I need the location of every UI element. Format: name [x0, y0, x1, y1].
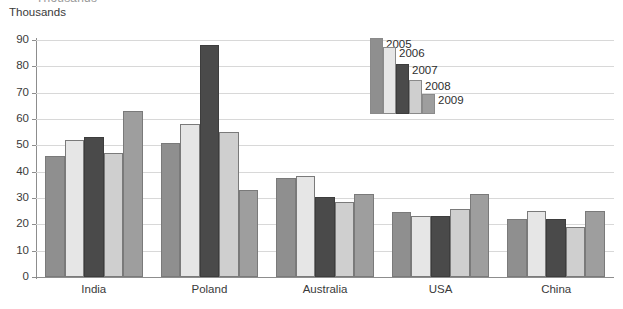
bar-group-india: [45, 40, 143, 277]
legend-swatch-2006[interactable]: [383, 47, 396, 114]
y-tick-mark-50: [32, 145, 36, 146]
legend-label-2006: 2006: [399, 48, 425, 60]
y-tick-label-70: 70: [16, 87, 29, 99]
bar-group-poland: [161, 40, 259, 277]
bar-poland-2005[interactable]: [161, 143, 181, 277]
bar-usa-2007[interactable]: [431, 216, 451, 277]
y-tick-mark-20: [32, 224, 36, 225]
y-tick-label-60: 60: [16, 113, 29, 125]
bar-usa-2008[interactable]: [450, 209, 470, 277]
bar-group-china: [507, 40, 605, 277]
bar-poland-2008[interactable]: [219, 132, 239, 277]
bar-australia-2008[interactable]: [335, 202, 355, 277]
chart-legend: 20052006200720082009: [370, 38, 510, 114]
y-tick-label-90: 90: [16, 34, 29, 46]
x-axis-label-poland: Poland: [191, 283, 227, 295]
bar-australia-2009[interactable]: [354, 194, 374, 277]
y-tick-label-40: 40: [16, 166, 29, 178]
y-tick-mark-70: [32, 93, 36, 94]
bar-india-2008[interactable]: [104, 153, 124, 277]
legend-label-2007: 2007: [412, 65, 438, 77]
legend-swatch-2007[interactable]: [396, 64, 409, 114]
legend-label-2009: 2009: [438, 95, 464, 107]
bar-poland-2006[interactable]: [180, 124, 200, 277]
y-tick-label-80: 80: [16, 61, 29, 73]
y-tick-mark-60: [32, 119, 36, 120]
bar-australia-2006[interactable]: [296, 176, 316, 277]
bar-usa-2006[interactable]: [411, 216, 431, 277]
bar-india-2005[interactable]: [45, 156, 65, 277]
bar-group-australia: [276, 40, 374, 277]
bar-usa-2005[interactable]: [392, 212, 412, 277]
bar-china-2008[interactable]: [566, 227, 586, 277]
x-axis-label-usa: USA: [429, 283, 453, 295]
bar-china-2006[interactable]: [527, 211, 547, 277]
gridline-0: [36, 277, 614, 278]
bar-poland-2009[interactable]: [239, 190, 259, 277]
y-tick-mark-90: [32, 40, 36, 41]
plot-area: 0102030405060708090: [36, 40, 614, 277]
y-axis-units-label: Thousands: [9, 6, 66, 18]
bar-australia-2007[interactable]: [315, 197, 335, 277]
y-tick-label-10: 10: [16, 245, 29, 257]
x-axis-label-india: India: [81, 283, 106, 295]
bar-usa-2009[interactable]: [470, 194, 490, 277]
y-tick-label-0: 0: [23, 271, 29, 283]
y-tick-mark-80: [32, 66, 36, 67]
y-tick-mark-40: [32, 172, 36, 173]
y-tick-mark-10: [32, 251, 36, 252]
bar-india-2006[interactable]: [65, 140, 85, 277]
y-tick-mark-0: [32, 277, 36, 278]
y-tick-mark-30: [32, 198, 36, 199]
bar-india-2007[interactable]: [84, 137, 104, 277]
x-axis-label-australia: Australia: [303, 283, 348, 295]
legend-swatch-2009[interactable]: [422, 94, 435, 114]
bar-india-2009[interactable]: [123, 111, 143, 277]
bar-chart: Thousands Thousands 0102030405060708090 …: [0, 0, 623, 309]
cropped-chart-title: Thousands: [36, 0, 97, 5]
bar-china-2007[interactable]: [546, 219, 566, 277]
legend-swatch-2005[interactable]: [370, 38, 383, 114]
legend-label-2008: 2008: [425, 81, 451, 93]
x-axis-label-china: China: [541, 283, 571, 295]
y-tick-label-30: 30: [16, 192, 29, 204]
legend-swatch-2008[interactable]: [409, 80, 422, 114]
bar-china-2009[interactable]: [585, 211, 605, 277]
y-tick-label-50: 50: [16, 140, 29, 152]
bar-china-2005[interactable]: [507, 219, 527, 277]
y-tick-label-20: 20: [16, 219, 29, 231]
bar-australia-2005[interactable]: [276, 178, 296, 277]
bar-poland-2007[interactable]: [200, 45, 220, 277]
